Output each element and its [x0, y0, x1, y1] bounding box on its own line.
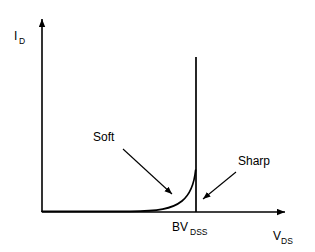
soft-annotation-arrow — [123, 149, 172, 194]
x-tick-label-bvdss-main: BV — [172, 220, 188, 234]
breakdown-characteristic-figure: I D V DS BV DSS Soft Sharp — [0, 0, 315, 252]
y-axis-label-main: I — [14, 29, 17, 43]
x-axis-label-main: V — [273, 229, 281, 243]
x-tick-label-bvdss-subscript: DSS — [190, 227, 208, 237]
sharp-annotation-arrow — [203, 172, 236, 199]
annotation-label-sharp: Sharp — [238, 154, 270, 168]
soft-breakdown-curve — [42, 170, 196, 211]
x-axis-label-subscript: DS — [281, 236, 293, 246]
figure-canvas: I D V DS BV DSS Soft Sharp — [0, 0, 315, 252]
annotation-label-soft: Soft — [93, 130, 115, 144]
y-axis-label-subscript: D — [19, 36, 25, 46]
